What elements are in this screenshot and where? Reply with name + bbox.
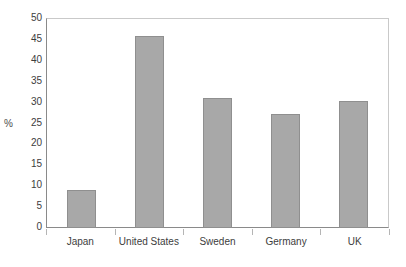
y-tick-label: 40	[18, 55, 42, 65]
bars-container	[47, 19, 388, 228]
bar-slot	[47, 19, 115, 228]
bar-sweden	[203, 98, 232, 228]
bar-japan	[67, 190, 96, 228]
x-label-sweden: Sweden	[183, 236, 252, 247]
bar-united-states	[135, 36, 164, 228]
bar-uk	[339, 101, 368, 228]
bar-chart-figure: % 50454035302520151050 JapanUnited State…	[0, 0, 406, 267]
x-tick-mark	[115, 229, 116, 235]
x-tick-mark	[46, 229, 47, 235]
bar-slot	[115, 19, 183, 228]
x-label-germany: Germany	[252, 236, 321, 247]
y-axis-title: %	[4, 118, 13, 129]
x-tick-mark	[389, 229, 390, 235]
y-tick-label: 45	[18, 34, 42, 44]
bar-germany	[271, 114, 300, 228]
bar-slot	[252, 19, 320, 228]
y-tick-label: 35	[18, 76, 42, 86]
y-tick-label: 0	[18, 222, 42, 232]
x-tick-mark	[183, 229, 184, 235]
x-tick-mark	[252, 229, 253, 235]
bar-slot	[320, 19, 388, 228]
x-axis-category-labels: JapanUnited StatesSwedenGermanyUK	[46, 236, 389, 247]
y-tick-label: 15	[18, 159, 42, 169]
x-label-uk: UK	[320, 236, 389, 247]
bar-slot	[183, 19, 251, 228]
x-label-united-states: United States	[115, 236, 184, 247]
x-label-japan: Japan	[46, 236, 115, 247]
y-tick-label: 30	[18, 97, 42, 107]
y-tick-label: 20	[18, 138, 42, 148]
y-axis-tick-labels: 50454035302520151050	[14, 18, 42, 228]
x-tick-mark	[320, 229, 321, 235]
y-tick-label: 5	[18, 201, 42, 211]
y-tick-label: 50	[18, 13, 42, 23]
y-tick-label: 25	[18, 118, 42, 128]
y-tick-label: 10	[18, 180, 42, 190]
x-axis-tick-marks	[46, 229, 389, 235]
